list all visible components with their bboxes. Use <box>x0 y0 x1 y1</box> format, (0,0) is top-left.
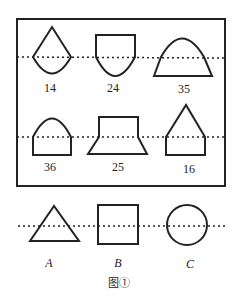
figure-caption: 图① <box>108 274 130 290</box>
shape-14 <box>33 27 71 74</box>
label-36: 36 <box>44 160 56 175</box>
label-25: 25 <box>112 160 124 175</box>
label-14: 14 <box>44 81 56 96</box>
label-16: 16 <box>183 162 195 177</box>
dotted-line-row1 <box>17 57 225 58</box>
label-A: A <box>45 256 52 271</box>
shape-16 <box>166 105 205 155</box>
shape-C-circle <box>167 205 207 245</box>
label-B: B <box>114 256 121 271</box>
shape-B-square <box>98 205 138 244</box>
shape-25 <box>88 117 147 154</box>
label-24: 24 <box>107 81 119 96</box>
shape-24 <box>96 35 135 76</box>
label-C: C <box>186 257 194 272</box>
shape-A-triangle <box>30 206 79 241</box>
label-35: 35 <box>178 82 190 97</box>
